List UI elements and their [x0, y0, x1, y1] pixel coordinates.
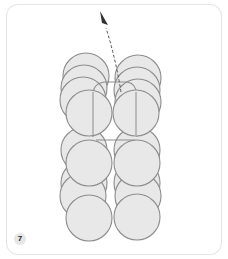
circle — [114, 194, 160, 240]
step-number-badge: 7 — [14, 233, 26, 245]
arrow-head-icon — [100, 11, 108, 25]
circle — [66, 90, 112, 136]
stacked-circles-diagram — [0, 0, 228, 259]
circle — [66, 195, 112, 241]
circle — [114, 140, 160, 186]
circle — [66, 140, 112, 186]
